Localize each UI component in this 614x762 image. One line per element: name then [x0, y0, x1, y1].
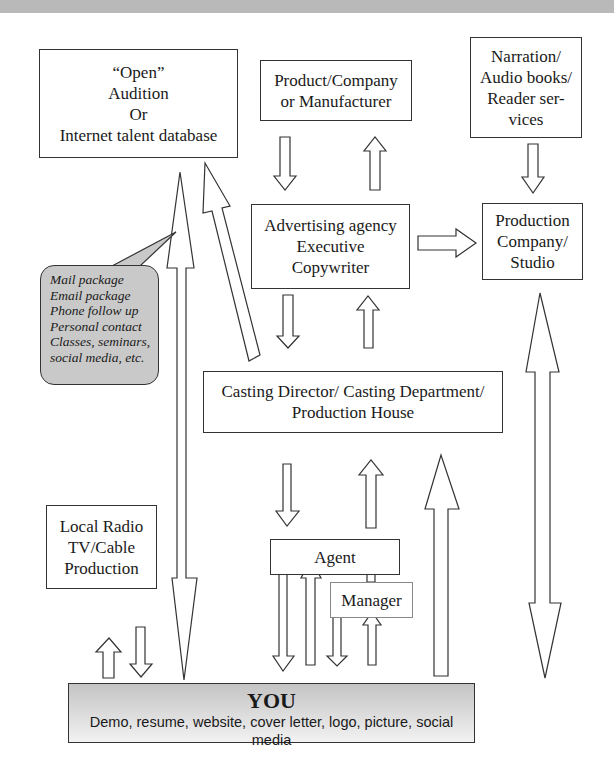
- arrow-up-icon: [425, 455, 459, 676]
- arrow-bidirectional-icon: [167, 172, 197, 680]
- local-radio-line-1: Local Radio: [60, 516, 144, 537]
- narration-line-3: Reader ser-: [487, 88, 565, 109]
- callout-line-2: Email package: [50, 288, 158, 304]
- manager-box: Manager: [330, 582, 413, 618]
- open-audition-box: “Open” Audition Or Internet talent datab…: [39, 49, 238, 158]
- narration-box: Narration/ Audio books/ Reader ser- vice…: [470, 37, 582, 138]
- arrow-down-icon: [273, 559, 294, 671]
- arrow-down-icon: [327, 615, 347, 666]
- arrow-up-icon: [301, 560, 321, 665]
- product-company-line-2: or Manufacturer: [281, 91, 392, 112]
- callout-line-6: social media, etc.: [50, 350, 158, 366]
- open-audition-line-4: Internet talent database: [60, 125, 218, 146]
- manager-label: Manager: [341, 590, 401, 611]
- casting-director-line-2: Production House: [292, 402, 414, 423]
- production-company-box: Production Company/ Studio: [482, 203, 583, 280]
- local-radio-line-2: TV/Cable: [68, 537, 135, 558]
- advertising-agency-line-1: Advertising agency: [264, 215, 397, 236]
- callout-line-5: Classes, seminars,: [50, 334, 158, 350]
- local-radio-box: Local Radio TV/Cable Production: [46, 505, 157, 589]
- arrow-bidirectional-icon: [526, 293, 561, 678]
- production-company-line-1: Production: [495, 210, 570, 231]
- outreach-callout: Mail package Email package Phone follow …: [40, 265, 159, 385]
- arrow-down-icon: [130, 627, 152, 677]
- casting-director-line-1: Casting Director/ Casting Department/: [222, 381, 485, 402]
- advertising-agency-line-3: Copywriter: [292, 257, 369, 278]
- arrow-down-icon: [277, 295, 299, 348]
- callout-line-4: Personal contact: [50, 319, 158, 335]
- narration-line-4: vices: [509, 109, 544, 130]
- arrow-right-icon: [418, 229, 476, 257]
- local-radio-line-3: Production: [64, 558, 139, 579]
- you-title: YOU: [69, 690, 474, 712]
- arrow-down-icon: [276, 464, 299, 526]
- agent-label: Agent: [314, 547, 356, 568]
- you-subtitle: Demo, resume, website, cover letter, log…: [69, 713, 474, 749]
- agent-box: Agent: [270, 539, 400, 575]
- callout-line-3: Phone follow up: [50, 303, 158, 319]
- arrow-up-icon: [364, 137, 386, 190]
- arrow-up-icon: [359, 460, 383, 528]
- arrow-down-icon: [274, 137, 296, 190]
- casting-director-box: Casting Director/ Casting Department/ Pr…: [203, 371, 503, 433]
- open-audition-line-3: Or: [130, 104, 148, 125]
- callout-line-1: Mail package: [50, 272, 158, 288]
- production-company-line-3: Studio: [510, 252, 554, 273]
- narration-line-2: Audio books/: [480, 67, 572, 88]
- arrow-down-icon: [522, 144, 544, 193]
- callout-pointer: [112, 232, 176, 266]
- advertising-agency-line-2: Executive: [297, 236, 365, 257]
- product-company-line-1: Product/Company: [274, 70, 398, 91]
- arrow-up-icon: [357, 296, 379, 348]
- product-company-box: Product/Company or Manufacturer: [260, 60, 412, 121]
- arrow-up-icon: [363, 612, 381, 665]
- production-company-line-2: Company/: [497, 231, 568, 252]
- you-box: YOU Demo, resume, website, cover letter,…: [68, 683, 475, 743]
- narration-line-1: Narration/: [491, 46, 561, 67]
- advertising-agency-box: Advertising agency Executive Copywriter: [251, 204, 410, 289]
- open-audition-line-1: “Open”: [113, 62, 165, 83]
- arrow-up-icon: [96, 638, 121, 678]
- open-audition-line-2: Audition: [108, 83, 168, 104]
